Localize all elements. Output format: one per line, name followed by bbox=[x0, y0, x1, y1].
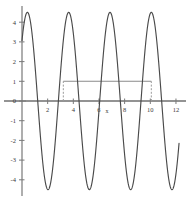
sinusoid-plot: 24681012 43210-1-2-3-4 x bbox=[0, 0, 195, 201]
y-tick-label: 1 bbox=[13, 78, 16, 85]
y-tick-label: 0 bbox=[13, 97, 16, 104]
y-tick-label: -4 bbox=[11, 176, 17, 183]
chart-figure: 24681012 43210-1-2-3-4 x bbox=[0, 0, 195, 201]
x-tick-label: 10 bbox=[147, 106, 154, 113]
y-tick-label: 3 bbox=[13, 38, 16, 45]
x-axis-label: x bbox=[106, 108, 109, 114]
x-tick-label: 8 bbox=[123, 106, 126, 113]
y-tick-label: 2 bbox=[13, 58, 16, 65]
y-tick-label: -3 bbox=[11, 156, 16, 163]
y-tick-label: -1 bbox=[11, 117, 16, 124]
x-tick-label: 2 bbox=[46, 106, 49, 113]
x-tick-label: 12 bbox=[173, 106, 180, 113]
y-tick-label: -2 bbox=[11, 137, 16, 144]
